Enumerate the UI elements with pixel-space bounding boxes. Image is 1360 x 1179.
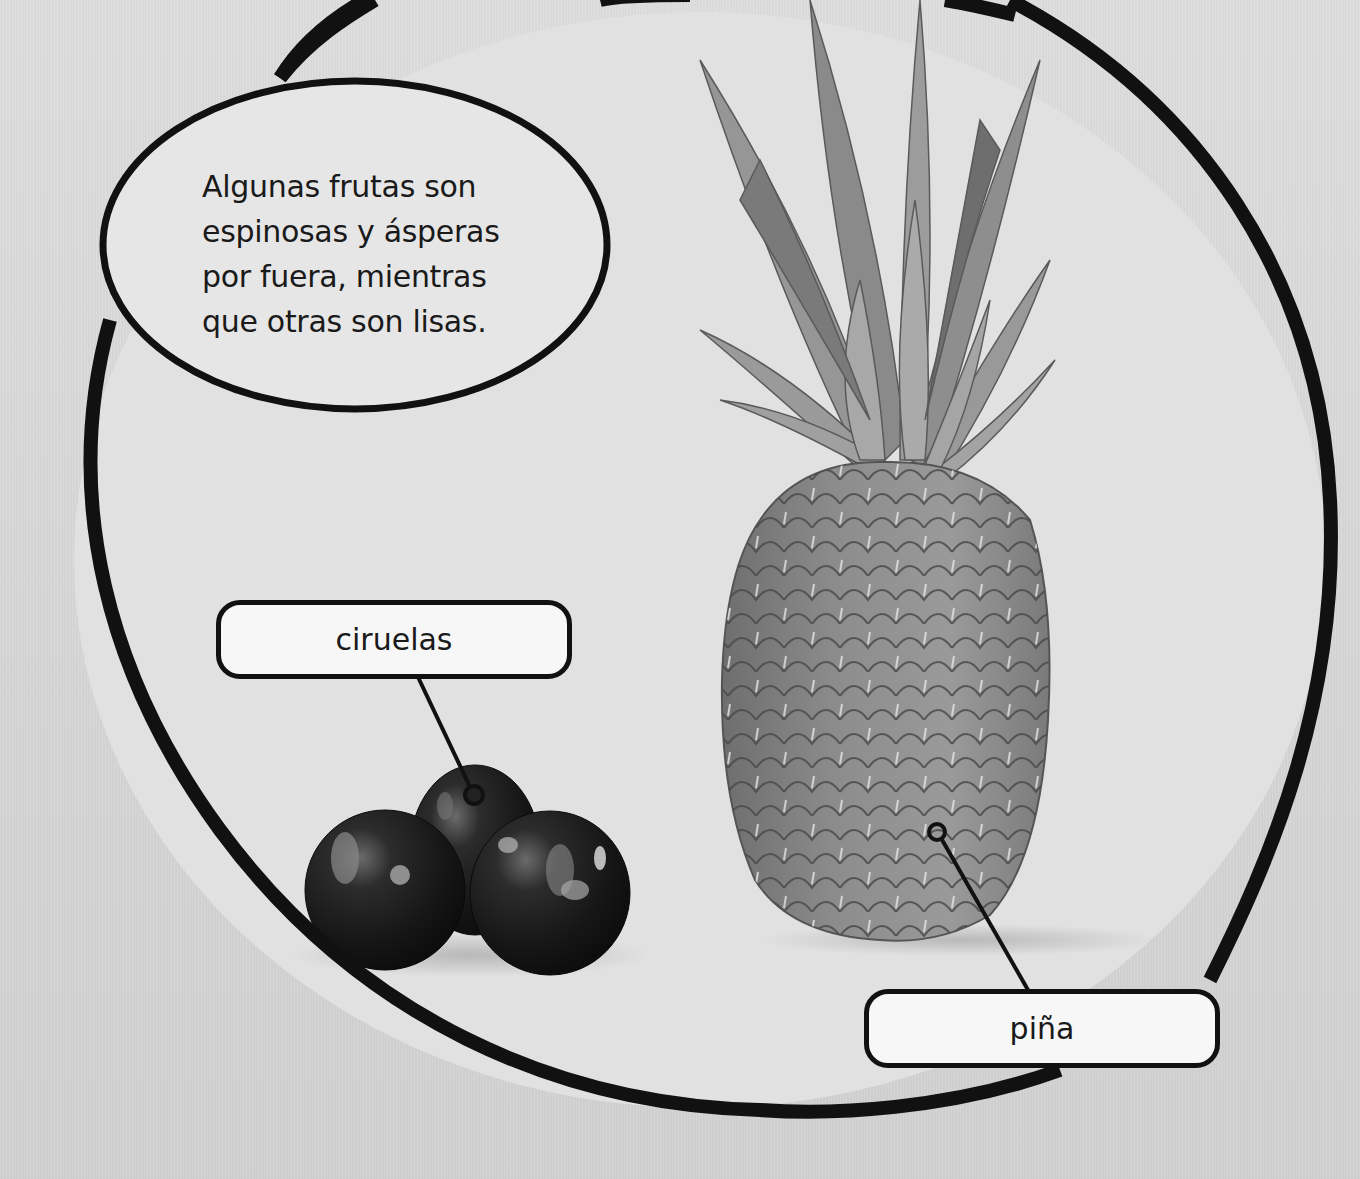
pineapple-label: piña — [864, 989, 1220, 1068]
speech-bubble-line: por fuera, mientras — [202, 254, 542, 299]
frame-circle-top-right-arc — [945, 0, 1015, 15]
speech-bubble-text: Algunas frutas son espinosas y ásperas p… — [202, 164, 542, 344]
speech-bubble-line: espinosas y ásperas — [202, 209, 542, 254]
speech-bubble-line: Algunas frutas son — [202, 164, 542, 209]
plums-label-text: ciruelas — [336, 622, 453, 657]
pineapple-label-text: piña — [1010, 1011, 1075, 1046]
plums-leader-dot — [465, 786, 483, 804]
speech-bubble-line: que otras son lisas. — [202, 299, 542, 344]
frame-circle-top-left-arc — [280, 0, 375, 78]
plums-label: ciruelas — [216, 600, 572, 679]
